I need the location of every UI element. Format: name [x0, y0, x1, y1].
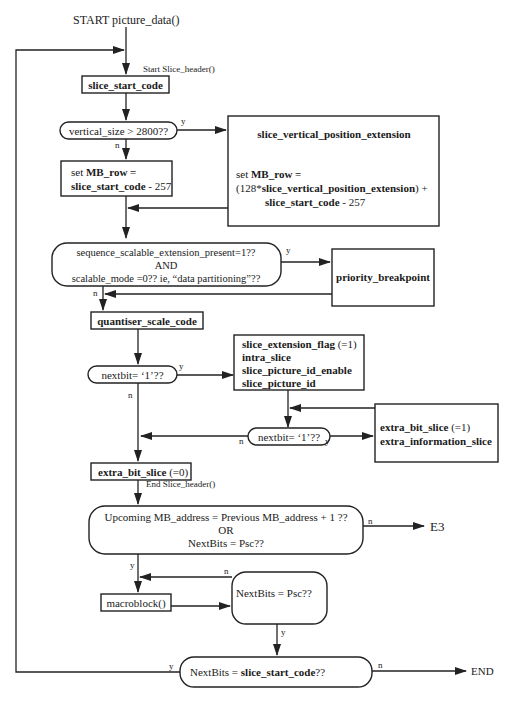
set-mb-row-line2: slice_start_code - 257 [71, 180, 172, 192]
slice-header-start-label: Start Slice_header() [143, 64, 215, 74]
mb-address-line2: OR [218, 524, 234, 536]
no-label: n [378, 660, 383, 670]
yes-label: y [130, 560, 135, 570]
terminal-end: END [471, 665, 494, 677]
no-label: n [128, 390, 133, 400]
extra-bit-slice-zero-text: extra_bit_slice (=0) [98, 466, 189, 479]
yes-label: y [325, 436, 330, 446]
yes-label: y [179, 361, 184, 371]
slice-start-code-text: slice_start_code [88, 79, 163, 91]
extra-information-box [375, 404, 498, 462]
yes-label: y [286, 245, 291, 255]
scalable-line3: scalable_mode =0?? ie, “data partitionin… [72, 273, 261, 284]
no-label: n [93, 288, 98, 298]
yes-label: y [281, 627, 286, 637]
start-label: START picture_data() [73, 13, 179, 27]
terminal-e3: E3 [430, 519, 444, 534]
slice-header-end-label: End Slice_header() [146, 479, 215, 489]
extra-line1: extra_bit_slice (=1) [380, 421, 471, 434]
scalable-line2: AND [155, 260, 178, 271]
no-label: n [224, 566, 229, 576]
final-check-text: NextBits = slice_start_code?? [190, 666, 325, 678]
svpe-line2: (128*slice_vertical_position_extension) … [236, 182, 428, 195]
no-label: n [115, 140, 120, 150]
quantiser-scale-code-text: quantiser_scale_code [97, 315, 197, 327]
mb-address-line3: NextBits = Psc?? [188, 537, 264, 549]
vertical-size-text: vertical_size > 2800?? [69, 125, 168, 137]
nextbit-1-text: nextbit= ‘1’?? [101, 369, 163, 381]
nextbits-psc-text: NextBits = Psc?? [236, 587, 312, 599]
priority-breakpoint-text: priority_breakpoint [336, 271, 430, 283]
ext-line2: intra_slice [242, 351, 291, 363]
ext-line3: slice_picture_id_enable [242, 364, 352, 376]
no-label: n [239, 436, 244, 446]
ext-line4: slice_picture_id [242, 377, 316, 389]
connector-loop-back [16, 50, 180, 672]
extra-line2: extra_information_slice [380, 435, 492, 447]
flowchart-canvas: START picture_data() Start Slice_header(… [0, 0, 510, 706]
svpe-line3: slice_start_code - 257 [265, 196, 366, 208]
yes-label: y [181, 116, 186, 126]
mb-address-line1: Upcoming MB_address = Previous MB_addres… [104, 511, 347, 523]
no-label: n [368, 516, 373, 526]
nextbit-2-text: nextbit= ‘1’?? [258, 431, 320, 443]
set-mb-row-line1: set MB_row = [71, 166, 136, 178]
macroblock-text: macroblock() [106, 597, 166, 610]
ext-line1: slice_extension_flag (=1) [242, 338, 357, 351]
scalable-line1: sequence_scalable_extension_present=1?? [76, 247, 255, 258]
svpe-title: slice_vertical_position_extension [257, 128, 410, 140]
svpe-line1: set MB_row = [236, 168, 301, 180]
yes-label: y [169, 661, 174, 671]
